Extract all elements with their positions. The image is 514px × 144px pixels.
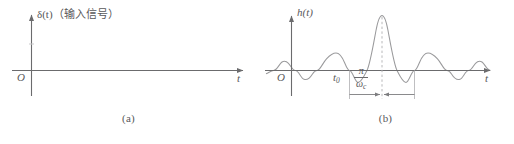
panel-a-x-axis-label: t <box>237 72 240 84</box>
panel-a-y-axis-label: δ(t)（输入信号） <box>37 5 119 21</box>
figure-root: O δ(t)（输入信号） t (a) <box>0 0 514 144</box>
panel-b-fraction-denominator: ω <box>356 78 363 89</box>
panel-b-fraction-denominator-subscript: c <box>363 82 366 91</box>
panel-b-caption: (b) <box>257 112 514 124</box>
panel-a-origin-label: O <box>17 71 25 83</box>
panel-b-y-axis-label: h(t) <box>297 6 313 18</box>
panel-b-cutoff-fraction: π ωc <box>354 66 368 89</box>
panel-b-t0-subscript: 0 <box>336 76 340 85</box>
panel-b-t0-label: t0 <box>333 71 340 83</box>
figure-panel-a: O δ(t)（输入信号） t (a) <box>0 0 257 144</box>
figure-panel-b: O h(t) t t0 π ωc (b) <box>257 0 514 144</box>
panel-b-x-axis-label: t <box>485 72 488 84</box>
panel-b-origin-label: O <box>277 71 285 83</box>
panel-a-caption: (a) <box>0 112 257 124</box>
panel-b-fraction-denominator-group: ωc <box>354 79 368 90</box>
panel-b-fraction-numerator: π <box>354 66 368 77</box>
panel-b-impulse-response-curve <box>266 16 491 83</box>
